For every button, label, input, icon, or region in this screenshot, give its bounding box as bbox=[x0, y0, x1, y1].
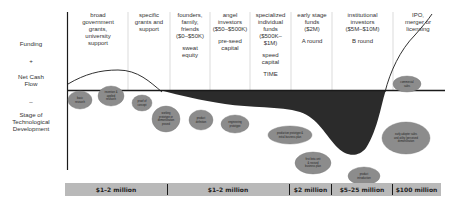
svg-text:working: working bbox=[162, 111, 171, 115]
svg-text:business plan: business plan bbox=[305, 164, 321, 168]
svg-text:applied: applied bbox=[107, 94, 116, 98]
column-early-stage-funds: early stage funds ($2M) A round bbox=[290, 12, 334, 45]
svg-text:research: research bbox=[106, 97, 117, 101]
column-founders-family-friends: founders, family, friends ($0–$50K) swea… bbox=[170, 12, 210, 59]
column-ipo-merger-licensing: IPO, merger or licensing bbox=[393, 12, 443, 33]
svg-text:proof of: proof of bbox=[138, 99, 147, 103]
svg-text:demonstration: demonstration bbox=[398, 139, 415, 143]
column-broad-government-grants: broad government grants, university supp… bbox=[68, 12, 128, 47]
svg-text:demonstration: demonstration bbox=[158, 118, 175, 122]
funding-segment-5: $100 million bbox=[396, 186, 438, 193]
column-specialized-individual-funds: specialized individual funds ($500K– $1M… bbox=[250, 12, 291, 78]
svg-text:invention &: invention & bbox=[105, 90, 118, 94]
funding-segment-2: $1–2 million bbox=[208, 186, 249, 193]
funding-segment-1: $1–2 million bbox=[96, 186, 137, 193]
svg-text:first beta unit: first beta unit bbox=[306, 157, 321, 161]
funding-segment-3: $2 million bbox=[294, 186, 327, 193]
svg-text:definition: definition bbox=[196, 120, 207, 124]
svg-text:proved: proved bbox=[162, 122, 170, 126]
svg-text:sales: sales bbox=[404, 84, 411, 88]
column-institutional-investors: institutional investors ($5M–$10M) B rou… bbox=[332, 12, 393, 45]
svg-text:prototype: prototype bbox=[230, 124, 241, 128]
funding-bar: $1–2 million $1–2 million $2 million $5–… bbox=[65, 183, 441, 196]
svg-text:& revised: & revised bbox=[308, 161, 319, 165]
svg-text:prototype or: prototype or bbox=[159, 115, 173, 119]
svg-text:early adopter sales: early adopter sales bbox=[395, 132, 418, 136]
funding-segment-4: $5–25 million bbox=[340, 186, 385, 193]
svg-text:and utility (perceived: and utility (perceived bbox=[394, 136, 418, 140]
svg-text:production prototype &: production prototype & bbox=[277, 131, 303, 135]
svg-text:concept: concept bbox=[137, 103, 146, 107]
svg-text:initial business plan: initial business plan bbox=[279, 135, 302, 139]
svg-text:introduction: introduction bbox=[357, 176, 371, 180]
svg-text:engineering: engineering bbox=[228, 120, 242, 124]
column-angel-investors: angel investors ($50–$500K) pre-seed cap… bbox=[209, 12, 251, 52]
svg-text:basic: basic bbox=[77, 96, 84, 100]
svg-text:commercial: commercial bbox=[400, 80, 414, 84]
svg-text:product: product bbox=[197, 116, 206, 120]
column-specific-grants: specific grants and support bbox=[128, 12, 170, 33]
svg-text:product: product bbox=[360, 172, 369, 176]
time-label: TIME bbox=[250, 71, 291, 78]
svg-text:research: research bbox=[75, 100, 86, 104]
